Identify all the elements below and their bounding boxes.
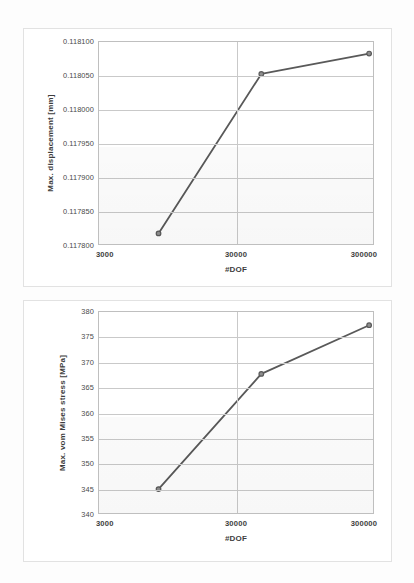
y-axis-tick-label: 345: [24, 484, 94, 493]
x-axis-tick-label: 30000: [225, 519, 247, 528]
data-point-marker: [156, 231, 161, 236]
gridline-horizontal: [99, 178, 373, 179]
gridline-horizontal: [99, 110, 373, 111]
y-axis-title-max-displacement: Max. displacement [mm]: [46, 94, 55, 191]
series-line-max-displacement: [99, 42, 373, 244]
gridline-horizontal: [99, 464, 373, 465]
chart-max-displacement: 0.1178000.1178500.1179000.1179500.118000…: [23, 28, 392, 287]
y-axis-tick-label: 0.117800: [24, 241, 94, 250]
x-axis-tick-label: 3000: [96, 250, 114, 259]
gridline-horizontal: [99, 212, 373, 213]
plot-area-max-von-mises-stress: [98, 311, 374, 514]
gridline-vertical: [237, 312, 238, 513]
y-axis-tick-label: 0.118050: [24, 71, 94, 80]
x-axis-tick-label: 3000: [96, 519, 114, 528]
x-axis-tick-label: 300000: [351, 250, 378, 259]
series-line-max-von-mises-stress: [99, 312, 373, 513]
gridline-horizontal: [99, 337, 373, 338]
data-point-marker: [367, 51, 372, 56]
chart-inner-bottom: 340345350355360365370375380 300030000300…: [24, 301, 391, 561]
gridline-horizontal: [99, 363, 373, 364]
x-axis-title-max-von-mises-stress: #DOF: [225, 534, 247, 543]
y-axis-tick-label: 0.117900: [24, 173, 94, 182]
gridline-vertical: [237, 42, 238, 244]
chart-inner-top: 0.1178000.1178500.1179000.1179500.118000…: [24, 29, 391, 286]
document-page: 0.1178000.1178500.1179000.1179500.118000…: [0, 0, 414, 583]
y-axis-tick-label: 380: [24, 307, 94, 316]
data-point-marker: [367, 323, 372, 328]
gridline-horizontal: [99, 76, 373, 77]
gridline-horizontal: [99, 388, 373, 389]
x-axis-tick-label: 300000: [351, 519, 378, 528]
y-axis-title-max-von-mises-stress: Max. vom Mises stress [MPa]: [58, 354, 67, 470]
y-axis-tick-label: 0.118000: [24, 105, 94, 114]
y-axis-tick-label: 0.118100: [24, 37, 94, 46]
x-axis-tick-label: 30000: [225, 250, 247, 259]
plot-area-max-displacement: [98, 41, 374, 245]
gridline-horizontal: [99, 414, 373, 415]
gridline-horizontal: [99, 144, 373, 145]
y-axis-tick-label: 375: [24, 332, 94, 341]
x-axis-title-max-displacement: #DOF: [225, 265, 247, 274]
gridline-horizontal: [99, 439, 373, 440]
y-axis-tick-label: 0.117850: [24, 207, 94, 216]
y-axis-tick-label: 340: [24, 510, 94, 519]
gridline-horizontal: [99, 490, 373, 491]
data-point-marker: [259, 372, 264, 377]
y-axis-tick-label: 0.117950: [24, 139, 94, 148]
chart-max-von-mises-stress: 340345350355360365370375380 300030000300…: [23, 300, 392, 562]
